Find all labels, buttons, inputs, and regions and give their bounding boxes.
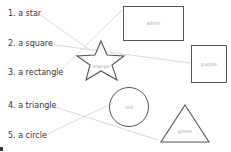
rectangle-color-label: white	[123, 20, 184, 26]
circle-color-label: red	[109, 104, 149, 110]
item-square: 2. a square	[8, 39, 53, 49]
corner-mark	[0, 147, 3, 151]
item-triangle: 4. a triangle	[8, 101, 56, 111]
item-star: 1. a star	[8, 9, 41, 19]
item-circle: 5. a circle	[8, 131, 47, 141]
star-color-label: orange	[85, 63, 117, 69]
triangle-shape	[161, 105, 209, 142]
triangle-color-label: green	[168, 128, 202, 134]
item-rectangle: 3. a rectangle	[8, 68, 63, 78]
square-color-label: purple	[191, 61, 227, 67]
